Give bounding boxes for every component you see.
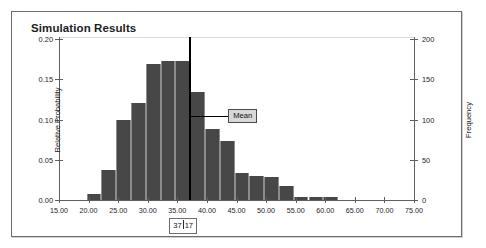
x-tick — [89, 197, 90, 203]
x-tick-label: 65.00 — [346, 206, 364, 215]
x-tick — [177, 197, 178, 203]
y-tick-right — [410, 120, 418, 121]
mean-leader-line — [190, 116, 228, 117]
x-tick — [237, 197, 238, 203]
y-tick-label-right: 200 — [422, 35, 434, 44]
page-title: Simulation Results — [31, 22, 136, 34]
mean-marker-line — [189, 37, 191, 200]
histogram-bar — [220, 141, 235, 200]
x-tick — [207, 197, 208, 203]
y-axis-left-title: Relative Probability — [53, 87, 62, 152]
histogram-bar — [205, 129, 220, 200]
histogram-bar — [116, 120, 131, 201]
histogram-bar — [161, 61, 176, 200]
y-tick-label-right: 50 — [422, 155, 430, 164]
x-tick-label: 40.00 — [198, 206, 216, 215]
histogram-bar — [309, 197, 324, 200]
x-tick-label: 45.00 — [228, 206, 246, 215]
x-tick — [118, 197, 119, 203]
y-tick-label-left: 0.20 — [39, 35, 53, 44]
x-tick-label: 75.00 — [405, 206, 423, 215]
y-tick-right — [410, 160, 418, 161]
y-tick-label-left: 0.15 — [39, 75, 53, 84]
screenshot-root: Simulation Results 0.000.050.100.150.20 … — [0, 0, 486, 248]
histogram-bar — [101, 170, 116, 200]
x-tick — [59, 197, 60, 203]
histogram-bar — [146, 64, 161, 200]
x-tick — [296, 197, 297, 203]
x-tick-label: 30.00 — [139, 206, 157, 215]
y-axis-right-title: Frequency — [464, 102, 473, 138]
x-tick-label: 15.00 — [50, 206, 68, 215]
x-tick-label: 35.00 — [168, 206, 186, 215]
x-tick — [148, 197, 149, 203]
x-tick-label: 70.00 — [375, 206, 393, 215]
y-tick-label-right: 100 — [422, 115, 434, 124]
x-tick-label: 50.00 — [257, 206, 275, 215]
histogram-bar — [279, 186, 294, 200]
mean-value-right: 17 — [185, 221, 193, 230]
x-tick — [266, 197, 267, 203]
mean-value-left: 37 — [173, 221, 181, 230]
x-tick-label: 55.00 — [287, 206, 305, 215]
x-tick — [355, 197, 356, 203]
y-tick-left — [55, 79, 63, 80]
x-tick — [384, 197, 385, 203]
y-tick-left — [55, 160, 63, 161]
x-tick-label: 25.00 — [109, 206, 127, 215]
x-tick — [414, 197, 415, 203]
y-tick-label-left: 0.10 — [39, 115, 53, 124]
mean-value-callout: 3717 — [169, 218, 197, 234]
chart-panel: Simulation Results 0.000.050.100.150.20 … — [11, 11, 462, 237]
x-tick-label: 20.00 — [80, 206, 98, 215]
histogram-bar — [175, 61, 190, 200]
y-tick-label-right: 150 — [422, 75, 434, 84]
top-reference-line — [60, 37, 414, 38]
y-tick-right — [410, 39, 418, 40]
x-tick-label: 60.00 — [316, 206, 334, 215]
x-tick — [325, 197, 326, 203]
y-tick-label-left: 0.05 — [39, 155, 53, 164]
y-tick-left — [55, 39, 63, 40]
histogram-bar — [190, 92, 205, 200]
mean-value-divider — [183, 220, 184, 229]
histogram-bar — [131, 103, 146, 200]
histogram-bar — [249, 176, 264, 200]
y-tick-label-left: 0.00 — [39, 196, 53, 205]
y-tick-label-right: 0 — [422, 196, 426, 205]
plot-area: 0.000.050.100.150.20 050100150200 15.002… — [59, 39, 415, 200]
mean-label: Mean — [228, 109, 257, 123]
y-tick-right — [410, 79, 418, 80]
